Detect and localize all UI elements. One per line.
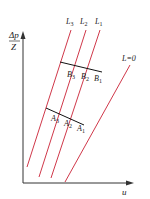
label-B1: B1 — [94, 74, 102, 84]
label-B3: B3 — [67, 70, 75, 80]
label-L1: L1 — [94, 17, 102, 27]
y-axis-arrow-icon — [21, 31, 26, 39]
label-L2: L2 — [79, 17, 87, 27]
label-L0: L=0 — [121, 54, 136, 63]
label-L3: L3 — [65, 17, 73, 27]
x-axis-arrow-icon — [126, 181, 134, 186]
label-B2: B2 — [81, 72, 89, 82]
line-L1 — [51, 30, 100, 178]
y-axis-numerator: Δp — [8, 30, 19, 40]
label-A3: A3 — [50, 114, 59, 124]
label-A1: A1 — [76, 124, 85, 134]
line-L2 — [39, 30, 86, 177]
diagram-canvas: Δp Z u L3 L2 L1 L=0 B3 B2 B1 A3 A2 A1 — [0, 0, 150, 199]
x-axis-label: u — [122, 187, 127, 197]
y-axis-denominator: Z — [11, 42, 17, 52]
